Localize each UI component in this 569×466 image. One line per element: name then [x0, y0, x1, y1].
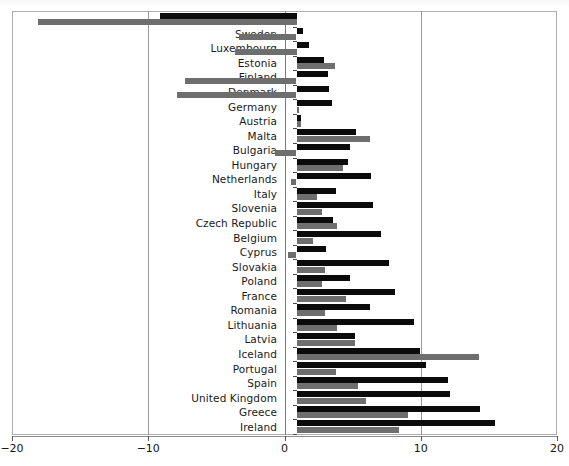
bar-series-b-norway	[38, 19, 297, 25]
bar-series-b-cyprus	[288, 252, 296, 258]
bar-series-b-greece	[297, 412, 409, 418]
bar-series-a-slovenia	[297, 202, 373, 208]
bar-series-a-austria	[297, 115, 301, 121]
bar-series-b-poland	[297, 281, 323, 287]
bar-series-a-netherlands	[297, 173, 372, 179]
bar-series-a-lithuania	[297, 319, 414, 325]
bar-series-b-spain	[297, 383, 358, 389]
axis-tick-0	[285, 436, 286, 441]
bar-series-a-estonia	[297, 57, 324, 63]
bar-series-b-sweden	[239, 34, 296, 40]
bar-series-b-hungary	[297, 165, 343, 171]
bar-series-a-spain	[297, 377, 448, 383]
bars-layer	[12, 12, 557, 434]
top-edge-shade	[0, 0, 569, 8]
axis-tick-label-0: 0	[281, 442, 288, 455]
bar-series-b-united-kingdom	[297, 398, 366, 404]
bar-series-b-portugal	[297, 369, 337, 375]
bar-series-a-sweden	[297, 28, 304, 34]
bar-series-b-iceland	[297, 354, 480, 360]
bar-series-a-italy	[297, 188, 337, 194]
bar-series-a-poland	[297, 275, 350, 281]
bar-series-b-germany	[297, 107, 300, 113]
bar-series-a-latvia	[297, 333, 356, 339]
bar-series-a-germany	[297, 100, 332, 106]
axis-tick-label--20: −20	[0, 442, 23, 455]
bar-series-a-cyprus	[297, 246, 327, 252]
bar-series-a-belgium	[297, 231, 381, 237]
axis-tick--10	[148, 436, 149, 441]
bar-series-b-slovenia	[297, 209, 323, 215]
bar-series-b-france	[297, 296, 346, 302]
bar-series-a-portugal	[297, 362, 426, 368]
bar-series-a-united-kingdom	[297, 391, 451, 397]
bar-series-a-finland	[297, 71, 328, 77]
axis-tick-label-10: 10	[414, 442, 428, 455]
bar-series-a-hungary	[297, 159, 349, 165]
bar-series-b-luxembourg	[235, 49, 296, 55]
bar-series-a-bulgaria	[297, 144, 350, 150]
bar-series-a-luxembourg	[297, 42, 309, 48]
axis-tick--20	[12, 436, 13, 441]
bar-chart: NorwaySwedenLuxembourgEstoniaFinlandDenm…	[0, 0, 569, 466]
bar-series-b-bulgaria	[275, 150, 297, 156]
bar-series-b-netherlands	[291, 179, 296, 185]
bar-series-b-slovakia	[297, 267, 326, 273]
bar-series-b-czech-republic	[297, 223, 338, 229]
bar-series-a-romania	[297, 304, 371, 310]
bar-series-a-france	[297, 289, 395, 295]
bar-series-a-slovakia	[297, 260, 390, 266]
bar-series-a-czech-republic	[297, 217, 334, 223]
bar-series-b-ireland	[297, 427, 399, 433]
bar-series-a-iceland	[297, 348, 421, 354]
bar-series-b-latvia	[297, 340, 356, 346]
axis-tick-label-20: 20	[550, 442, 564, 455]
bar-series-b-denmark	[177, 92, 297, 98]
bar-series-b-romania	[297, 310, 326, 316]
bar-series-a-norway	[160, 13, 296, 19]
bar-series-a-malta	[297, 129, 357, 135]
bar-series-a-greece	[297, 406, 481, 412]
axis-tick-10	[421, 436, 422, 441]
value-axis: −20−1001020	[0, 436, 569, 466]
bar-series-b-austria	[297, 121, 301, 127]
bar-series-b-lithuania	[297, 325, 338, 331]
bar-series-b-malta	[297, 136, 371, 142]
bar-series-b-italy	[297, 194, 317, 200]
bar-series-b-belgium	[297, 238, 313, 244]
axis-tick-label--10: −10	[137, 442, 160, 455]
category-tick	[293, 434, 297, 435]
bar-series-a-denmark	[297, 86, 330, 92]
bar-series-b-finland	[185, 78, 297, 84]
bar-series-a-ireland	[297, 420, 496, 426]
axis-tick-20	[557, 436, 558, 441]
bar-series-b-estonia	[297, 63, 335, 69]
